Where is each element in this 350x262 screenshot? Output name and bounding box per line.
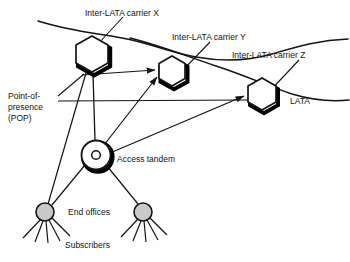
edge-pop-x-to-end-office-left xyxy=(48,73,86,204)
access-tandem-inner-ring xyxy=(92,151,101,160)
label-inter-lata-carrier-x: Inter-LATA carrier X xyxy=(85,8,159,19)
label-inter-lata-carrier-y: Inter-LATA carrier Y xyxy=(172,32,246,43)
label-access-tandem: Access tandem xyxy=(117,154,175,165)
point-of-presence-z[interactable] xyxy=(248,78,278,113)
label-end-offices: End offices xyxy=(68,207,110,218)
label-inter-lata-carrier-z: Inter-LATA carrier Z xyxy=(232,50,305,61)
edge-access-tandem-to-pop-y xyxy=(104,77,157,145)
leader-line-pop-lower xyxy=(58,100,248,101)
subscriber-lines-left xyxy=(23,218,70,243)
label-pop-line2: presence xyxy=(8,102,43,113)
label-pop-line3: (POP) xyxy=(8,113,32,124)
label-pop-line1: Point-of- xyxy=(8,91,40,102)
point-of-presence-y[interactable] xyxy=(159,56,188,89)
edge-pop-x-to-access-tandem xyxy=(93,73,95,141)
edge-access-tandem-to-end-office-right xyxy=(107,166,138,204)
diagram-canvas: Inter-LATA carrier X Inter-LATA carrier … xyxy=(0,0,350,262)
access-tandem[interactable] xyxy=(82,141,113,172)
end-office-left[interactable] xyxy=(23,203,70,243)
end-office-right[interactable] xyxy=(121,203,167,242)
edge-access-tandem-to-pop-z xyxy=(110,96,244,153)
point-of-presence-x[interactable] xyxy=(76,36,110,75)
label-subscribers: Subscribers xyxy=(65,240,110,251)
label-lata: LATA xyxy=(290,96,310,107)
